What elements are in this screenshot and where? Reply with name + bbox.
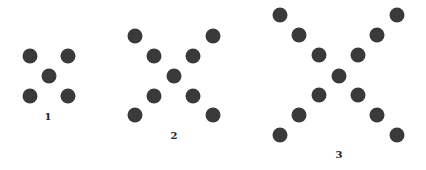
dot-pattern-diagram: 1 2 3 bbox=[0, 0, 426, 170]
dot bbox=[370, 108, 385, 123]
dot bbox=[390, 8, 405, 23]
dot bbox=[292, 108, 307, 123]
dot bbox=[292, 28, 307, 43]
dot bbox=[390, 128, 405, 143]
dot bbox=[351, 88, 366, 103]
figure-3: 3 bbox=[0, 0, 426, 170]
dot bbox=[370, 28, 385, 43]
dot bbox=[312, 88, 327, 103]
dot bbox=[312, 48, 327, 63]
dot bbox=[273, 8, 288, 23]
dot bbox=[273, 128, 288, 143]
dot bbox=[351, 48, 366, 63]
figure-label: 3 bbox=[336, 150, 343, 160]
dot bbox=[332, 69, 347, 84]
